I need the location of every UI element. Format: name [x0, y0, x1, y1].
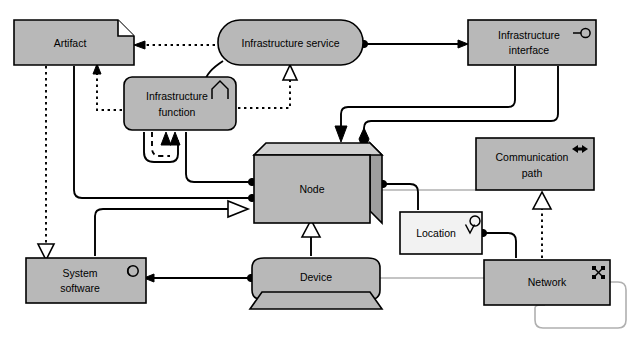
node-location[interactable]: Location	[400, 212, 482, 254]
node-network[interactable]: Network	[484, 260, 610, 305]
node-label: Node	[299, 183, 324, 195]
infrastructure-service-label: Infrastructure service	[241, 37, 339, 49]
network-label: Network	[528, 276, 567, 288]
node-communication-path[interactable]: Communication path	[476, 138, 594, 190]
edge-node-location	[384, 184, 418, 210]
node-node[interactable]: Node	[254, 143, 382, 223]
edge-function-artifact	[97, 72, 122, 110]
infrastructure-function-label-line1: Infrastructure	[146, 90, 208, 102]
arrowhead-function-self-1	[161, 132, 171, 145]
location-label: Location	[416, 227, 456, 239]
arrowhead-function-self-2	[170, 132, 180, 145]
system-software-shape	[26, 258, 146, 303]
edge-location-network	[484, 233, 516, 258]
edge-system-software-node	[95, 209, 228, 256]
node-top-face	[254, 143, 382, 155]
node-artifact[interactable]: Artifact	[14, 20, 134, 65]
system-software-label-line1: System	[62, 267, 97, 279]
communication-path-shape	[476, 138, 594, 190]
diagram-canvas: Artifact Infrastructure service Infrastr…	[0, 0, 634, 338]
node-system-software[interactable]: System software	[26, 258, 146, 303]
system-software-label-line2: software	[60, 282, 100, 294]
node-infrastructure-function[interactable]: Infrastructure function	[124, 77, 236, 130]
node-device[interactable]: Device	[250, 258, 382, 309]
device-stand	[250, 292, 382, 309]
infrastructure-function-label-line2: function	[159, 106, 196, 118]
arrowhead-interface-node-assignment	[335, 126, 347, 142]
artifact-label: Artifact	[54, 37, 87, 49]
device-label: Device	[300, 271, 332, 283]
arrowhead-system-software-node	[228, 201, 248, 217]
arrowhead-function-service	[283, 65, 297, 80]
infrastructure-interface-shape	[468, 20, 596, 65]
infrastructure-interface-label-line1: Infrastructure	[498, 29, 560, 41]
arrowhead-service-interface	[458, 40, 468, 48]
communication-path-label-line2: path	[522, 167, 543, 179]
edge-function-service	[238, 79, 290, 108]
node-infrastructure-service[interactable]: Infrastructure service	[218, 20, 363, 65]
communication-path-label-line1: Communication	[496, 151, 569, 163]
arrowhead-service-artifact	[134, 41, 145, 49]
arrowhead-network-communication-path	[533, 192, 551, 209]
infrastructure-function-shape	[124, 77, 236, 130]
node-infrastructure-interface[interactable]: Infrastructure interface	[468, 20, 596, 65]
infrastructure-interface-label-line2: interface	[509, 44, 549, 56]
edge-interface-node-composition	[364, 66, 558, 146]
technology-layer-metamodel-diagram: Artifact Infrastructure service Infrastr…	[0, 0, 634, 338]
edge-function-node	[186, 132, 250, 182]
